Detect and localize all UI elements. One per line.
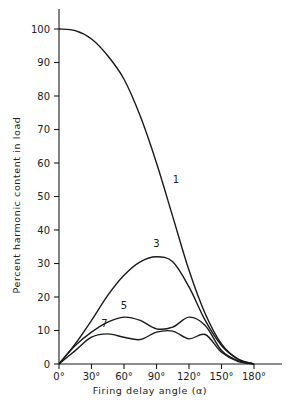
harmonic-content-chart: 0102030405060708090100 0°30°60°90°120°15… xyxy=(0,0,303,416)
y-tick-label: 30 xyxy=(37,258,50,269)
x-tick-label: 150° xyxy=(209,371,233,382)
x-tick-label: 90° xyxy=(148,371,166,382)
x-tick-label: 60° xyxy=(115,371,133,382)
harmonic-curves xyxy=(59,29,254,364)
x-tick-label: 30° xyxy=(83,371,101,382)
x-tick-label: 180° xyxy=(242,371,266,382)
harmonic-7-label: 7 xyxy=(101,318,107,329)
y-tick-label: 100 xyxy=(31,24,50,35)
y-axis-title: Percent harmonic content in load xyxy=(11,117,22,294)
x-ticks: 0°30°60°90°120°150°180° xyxy=(53,364,266,382)
y-tick-label: 20 xyxy=(37,292,50,303)
x-tick-label: 120° xyxy=(177,371,201,382)
y-tick-label: 40 xyxy=(37,225,50,236)
harmonic-5-label: 5 xyxy=(121,300,127,311)
y-tick-label: 0 xyxy=(44,359,50,370)
y-tick-label: 10 xyxy=(37,325,50,336)
x-tick-label: 0° xyxy=(53,371,64,382)
axes xyxy=(59,9,282,364)
y-ticks: 0102030405060708090100 xyxy=(31,24,59,370)
x-axis-title: Firing delay angle (α) xyxy=(93,385,207,396)
harmonic-1-curve xyxy=(59,29,254,364)
harmonic-3-label: 3 xyxy=(153,238,159,249)
harmonic-1-label: 1 xyxy=(173,174,179,185)
y-tick-label: 50 xyxy=(37,191,50,202)
y-tick-label: 70 xyxy=(37,124,50,135)
y-tick-label: 80 xyxy=(37,91,50,102)
y-tick-label: 60 xyxy=(37,158,50,169)
y-tick-label: 90 xyxy=(37,57,50,68)
